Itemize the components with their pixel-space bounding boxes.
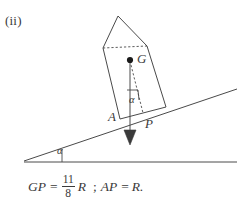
label-point-p: P [145, 116, 153, 132]
formula-equals-1: = [50, 179, 58, 195]
weight-arrowhead [124, 130, 136, 145]
dashed-gp-segment [130, 61, 143, 113]
formula-separator: ; [93, 179, 97, 195]
formula-radius-2: R. [132, 179, 144, 195]
centre-of-gravity-dot [127, 57, 133, 63]
formula-ap: AP [101, 179, 118, 195]
formula-fraction: 11 8 [62, 174, 75, 199]
label-incline-angle-alpha: α [57, 145, 63, 156]
label-body-angle-alpha: α [129, 94, 135, 105]
figure-canvas: (ii) G A P α α GP = 11 8 R [0, 0, 239, 206]
formula-line: GP = 11 8 R ; AP = R. [28, 174, 146, 199]
fraction-denominator: 8 [64, 188, 72, 200]
label-centre-of-gravity: G [137, 51, 146, 67]
fraction-numerator: 11 [62, 174, 75, 186]
formula-equals-2: = [121, 179, 129, 195]
label-point-a: A [108, 109, 116, 125]
prism-dashed-top-edge [103, 46, 147, 48]
formula-gp: GP [28, 179, 46, 195]
formula-radius-1: R [78, 179, 86, 195]
